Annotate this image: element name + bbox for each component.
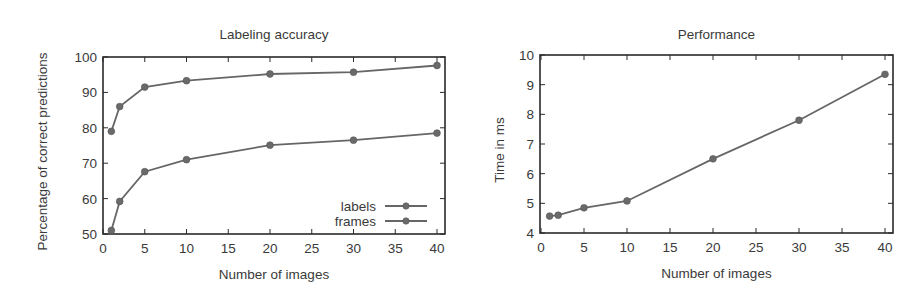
legend-label: frames bbox=[335, 214, 377, 229]
legend-marker bbox=[403, 203, 409, 209]
data-point bbox=[350, 137, 357, 144]
x-axis-label: Number of images bbox=[219, 267, 330, 282]
x-tick-label: 15 bbox=[662, 240, 677, 255]
data-point bbox=[108, 128, 115, 135]
y-tick-label: 4 bbox=[526, 226, 534, 241]
x-tick-label: 15 bbox=[221, 241, 236, 256]
y-tick-label: 70 bbox=[82, 156, 97, 171]
series-labels bbox=[108, 62, 440, 135]
y-tick-label: 80 bbox=[82, 121, 97, 136]
x-tick-label: 5 bbox=[141, 241, 149, 256]
figure: Labeling accuracy05101520253035405060708… bbox=[0, 0, 923, 297]
data-point bbox=[624, 198, 631, 205]
data-point bbox=[108, 227, 115, 234]
x-tick-label: 20 bbox=[262, 241, 277, 256]
x-tick-label: 10 bbox=[179, 241, 194, 256]
data-point bbox=[882, 71, 889, 78]
y-tick-label: 60 bbox=[82, 192, 97, 207]
x-axis-label: Number of images bbox=[661, 266, 772, 281]
data-point bbox=[267, 71, 274, 78]
x-tick-label: 25 bbox=[304, 241, 319, 256]
x-tick-label: 10 bbox=[619, 240, 634, 255]
x-tick-label: 40 bbox=[429, 241, 444, 256]
data-point bbox=[116, 198, 123, 205]
data-point bbox=[183, 156, 190, 163]
chart-labeling-accuracy: Labeling accuracy05101520253035405060708… bbox=[35, 27, 445, 282]
x-tick-label: 0 bbox=[537, 240, 545, 255]
x-tick-label: 0 bbox=[99, 241, 107, 256]
data-point bbox=[267, 142, 274, 149]
y-tick-label: 90 bbox=[82, 85, 97, 100]
data-point bbox=[546, 213, 553, 220]
data-point bbox=[434, 130, 441, 137]
chart-performance: Performance051015202530354045678910Numbe… bbox=[492, 27, 893, 281]
y-tick-label: 5 bbox=[526, 196, 534, 211]
x-tick-label: 40 bbox=[877, 240, 892, 255]
data-point bbox=[555, 212, 562, 219]
y-axis-label: Percentage of correct predictions bbox=[35, 52, 50, 250]
series-line bbox=[111, 65, 437, 131]
data-point bbox=[581, 204, 588, 211]
charts-canvas: Labeling accuracy05101520253035405060708… bbox=[0, 0, 923, 297]
data-point bbox=[796, 117, 803, 124]
x-tick-label: 30 bbox=[346, 241, 361, 256]
data-point bbox=[434, 62, 441, 69]
x-tick-label: 35 bbox=[834, 240, 849, 255]
legend-label: labels bbox=[341, 199, 377, 214]
y-tick-label: 8 bbox=[526, 107, 534, 122]
series-line bbox=[111, 133, 437, 230]
data-point bbox=[710, 155, 717, 162]
data-point bbox=[141, 84, 148, 91]
legend-marker bbox=[403, 218, 409, 224]
y-tick-label: 9 bbox=[526, 78, 534, 93]
series-frames bbox=[108, 130, 440, 234]
y-axis-label: Time in ms bbox=[492, 117, 507, 183]
series-time bbox=[546, 71, 888, 220]
x-tick-label: 5 bbox=[580, 240, 588, 255]
x-tick-label: 25 bbox=[748, 240, 763, 255]
y-tick-label: 50 bbox=[82, 227, 97, 242]
chart-title: Performance bbox=[678, 27, 755, 42]
y-tick-label: 7 bbox=[526, 137, 534, 152]
y-tick-label: 10 bbox=[519, 48, 534, 63]
series-line bbox=[550, 74, 885, 216]
x-tick-label: 35 bbox=[388, 241, 403, 256]
data-point bbox=[350, 69, 357, 76]
data-point bbox=[141, 168, 148, 175]
data-point bbox=[183, 77, 190, 84]
y-tick-label: 6 bbox=[526, 167, 534, 182]
data-point bbox=[116, 103, 123, 110]
legend: labelsframes bbox=[335, 199, 427, 229]
y-tick-label: 100 bbox=[74, 50, 97, 65]
x-tick-label: 20 bbox=[705, 240, 720, 255]
chart-title: Labeling accuracy bbox=[220, 27, 329, 42]
x-tick-label: 30 bbox=[791, 240, 806, 255]
